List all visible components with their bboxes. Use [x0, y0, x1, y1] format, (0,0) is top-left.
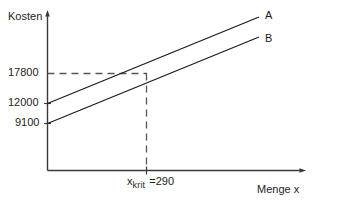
- x-axis-label: Menge x: [257, 184, 299, 195]
- series-line-a: [48, 17, 260, 104]
- x-tick-label-krit: xkrit=290: [127, 176, 174, 190]
- series-label-a: A: [265, 10, 272, 21]
- y-tick-label-17800: 17800: [8, 67, 39, 78]
- x-axis: [48, 168, 307, 173]
- cost-comparison-chart: Kosten Menge x 17800 12000 9100 A B xkri…: [0, 0, 340, 208]
- series-label-b: B: [265, 33, 272, 44]
- series-line-b: [48, 37, 260, 124]
- y-tick-label-12000: 12000: [8, 97, 39, 108]
- y-axis: [45, 10, 50, 171]
- y-axis-label: Kosten: [8, 11, 42, 22]
- xkrit-subscript: krit: [133, 180, 146, 190]
- xkrit-value: =290: [149, 175, 174, 187]
- y-tick-label-9100: 9100: [15, 117, 39, 128]
